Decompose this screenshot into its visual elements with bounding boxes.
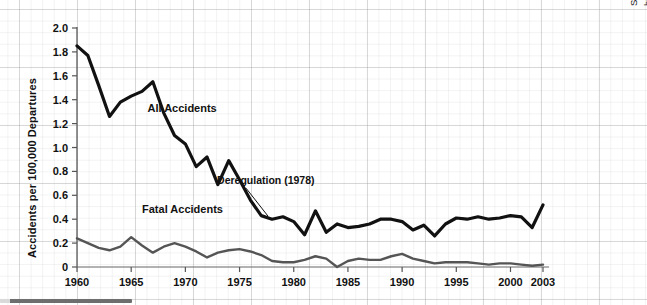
y-axis-tick-label: 1.4 xyxy=(53,94,69,106)
x-axis-tick-label: 2000 xyxy=(498,276,522,288)
x-axis-tick-label: 1980 xyxy=(282,276,306,288)
source-line-1: SOURCE: National Transportation Safety B… xyxy=(627,0,647,6)
y-axis-tick-label: 0.8 xyxy=(53,165,68,177)
x-axis-tick-label: 2003 xyxy=(531,276,555,288)
y-axis-tick-label: 2.0 xyxy=(53,22,68,34)
series-label-fatal-accidents: Fatal Accidents xyxy=(142,203,223,215)
chart-container: 00.20.40.60.81.01.21.41.61.82.0196019651… xyxy=(0,0,580,288)
horizontal-scrollbar[interactable] xyxy=(0,299,132,303)
x-axis-tick-label: 1970 xyxy=(173,276,197,288)
y-axis-tick-label: 0.2 xyxy=(53,237,68,249)
series-line-fatal-accidents xyxy=(77,237,543,267)
source-note: SOURCE: National Transportation Safety B… xyxy=(600,0,647,6)
x-axis-tick-label: 1975 xyxy=(227,276,251,288)
x-axis-tick-label: 1995 xyxy=(444,276,468,288)
x-axis-tick-label: 1960 xyxy=(65,276,89,288)
y-axis-tick-label: 1.0 xyxy=(53,142,68,154)
y-axis-tick-label: 1.2 xyxy=(53,118,68,130)
y-axis-tick-label: 1.8 xyxy=(53,46,68,58)
line-chart: 00.20.40.60.81.01.21.41.61.82.0196019651… xyxy=(0,0,580,288)
y-axis-title: Accidents per 100,000 Departures xyxy=(26,78,38,258)
annotation-deregulation-label: Deregulation (1978) xyxy=(217,174,314,186)
y-axis-tick-label: 0 xyxy=(62,261,68,273)
x-axis-tick-label: 1990 xyxy=(390,276,414,288)
y-axis-tick-label: 0.6 xyxy=(53,189,68,201)
x-axis-tick-label: 1985 xyxy=(336,276,360,288)
y-axis-tick-label: 1.6 xyxy=(53,70,68,82)
y-axis-tick-label: 0.4 xyxy=(53,213,69,225)
x-axis-tick-label: 1965 xyxy=(119,276,143,288)
series-label-all-accidents: All Accidents xyxy=(147,102,216,114)
